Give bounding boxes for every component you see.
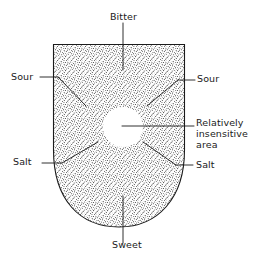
label-salt-left: Salt: [13, 156, 32, 167]
label-sweet: Sweet: [112, 239, 142, 250]
label-sour-right: Sour: [197, 73, 219, 84]
label-insensitive-area: Relatively insensitive area: [196, 117, 248, 150]
label-sour-left: Sour: [11, 71, 33, 82]
label-salt-right: Salt: [196, 159, 215, 170]
insensitive-area-circle: [103, 107, 143, 147]
label-bitter: Bitter: [110, 11, 137, 22]
tongue-taste-map-figure: Bitter Sour Sour Salt Salt Relatively in…: [0, 0, 256, 258]
